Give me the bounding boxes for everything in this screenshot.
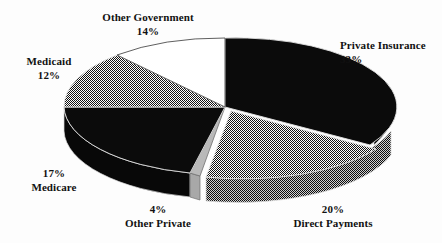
- slice-label-other-government-name: Other Government: [86, 10, 210, 24]
- slice-label-medicaid-percent: 12%: [12, 68, 86, 82]
- slice-label-medicaid: Medicaid 12%: [12, 54, 86, 82]
- pie-chart-figure: Other Government 14% Private Insurance 3…: [0, 0, 442, 243]
- slice-label-medicaid-name: Medicaid: [12, 54, 86, 68]
- slice-label-direct-payments: 20% Direct Payments: [278, 202, 388, 230]
- slice-label-medicare-name: Medicare: [12, 180, 96, 194]
- slice-label-medicare-percent: 17%: [12, 166, 96, 180]
- slice-label-private-insurance-name: Private Insurance: [340, 38, 440, 52]
- slice-label-direct-payments-name: Direct Payments: [278, 216, 388, 230]
- slice-label-other-private: 4% Other Private: [112, 202, 204, 230]
- slice-label-other-private-name: Other Private: [112, 216, 204, 230]
- other-private-depth: [190, 173, 200, 200]
- slice-label-private-insurance: Private Insurance 33%: [340, 38, 440, 66]
- slice-label-other-government: Other Government 14%: [86, 10, 210, 38]
- slice-label-medicare: 17% Medicare: [12, 166, 96, 194]
- slice-label-private-insurance-percent: 33%: [340, 52, 440, 66]
- slice-label-other-private-percent: 4%: [112, 202, 204, 216]
- slice-label-direct-payments-percent: 20%: [278, 202, 388, 216]
- slice-label-other-government-percent: 14%: [86, 24, 210, 38]
